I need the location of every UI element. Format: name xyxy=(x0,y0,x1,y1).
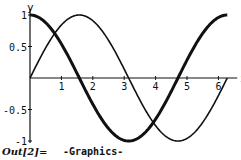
x-tick-label: 4 xyxy=(153,81,159,92)
x-tick-label: 5 xyxy=(184,81,190,92)
x-tick-label: 2 xyxy=(90,81,96,92)
y-axis-label: y xyxy=(27,1,34,14)
y-tick-label: -0.5 xyxy=(3,105,27,116)
x-tick-label: 1 xyxy=(58,81,64,92)
plot-area: 12345610.5-0.5-1xy xyxy=(0,0,241,146)
graphics-output: -Graphics- xyxy=(63,146,123,157)
y-tick-label: -1 xyxy=(15,136,27,146)
x-axis-label: x xyxy=(240,72,241,85)
output-label: Out[2]= xyxy=(2,146,47,157)
y-tick-label: 0.5 xyxy=(9,42,27,53)
x-tick-label: 3 xyxy=(121,81,127,92)
